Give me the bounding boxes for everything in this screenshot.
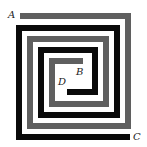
black-spiral-path: [19, 28, 130, 137]
point-label-b: B: [76, 67, 83, 77]
point-label-c: C: [133, 132, 141, 142]
point-label-a: A: [8, 10, 15, 20]
point-label-d: D: [58, 77, 66, 87]
spiral-diagram: [0, 0, 147, 147]
gray-spiral-path: [20, 16, 128, 126]
